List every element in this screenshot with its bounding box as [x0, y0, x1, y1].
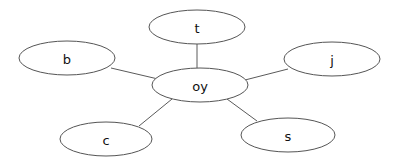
graph-edge-oy-b[interactable]: [111, 68, 158, 79]
graph-edge-oy-c[interactable]: [139, 99, 172, 126]
graph-node-b[interactable]: b: [19, 41, 115, 75]
graph-edge-oy-j[interactable]: [245, 69, 288, 80]
graph-node-t[interactable]: t: [149, 10, 245, 44]
graph-node-s[interactable]: s: [241, 118, 335, 152]
graph-node-c[interactable]: c: [60, 122, 152, 156]
diagram-canvas: tbjoycs: [0, 0, 396, 163]
node-label-b: b: [63, 52, 71, 67]
node-label-s: s: [285, 129, 292, 144]
node-label-j: j: [329, 53, 334, 68]
node-label-oy: oy: [192, 79, 208, 94]
node-label-t: t: [194, 21, 199, 36]
node-link-graph: tbjoycs: [0, 0, 396, 163]
nodes-layer: tbjoycs: [19, 10, 380, 156]
graph-edge-oy-s[interactable]: [227, 99, 257, 121]
node-label-c: c: [102, 133, 109, 148]
graph-node-j[interactable]: j: [284, 42, 380, 76]
graph-node-oy[interactable]: oy: [152, 68, 248, 102]
